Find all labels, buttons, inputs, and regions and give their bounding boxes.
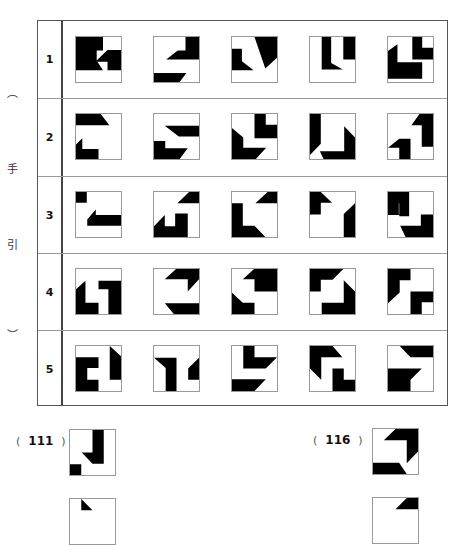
tile-shape (388, 114, 433, 159)
row-number: 1 (38, 21, 61, 98)
figure-tile (309, 345, 356, 392)
tile-shape (232, 346, 277, 391)
row-number: 2 (38, 99, 61, 176)
figure-tile (231, 113, 278, 160)
next-question-figure-left (69, 498, 116, 545)
table-row-2: 2 (38, 98, 447, 176)
figure-tile (309, 268, 356, 315)
row-number: 3 (38, 177, 61, 254)
tile-shape (373, 429, 418, 474)
tile-shape (76, 114, 109, 159)
tile-shape (70, 430, 104, 475)
figure-tile (153, 268, 200, 315)
tile-shape (396, 498, 419, 509)
figure-tile (387, 113, 434, 160)
figure-tile (387, 345, 434, 392)
tile-shape (388, 37, 433, 79)
row-number: 4 (38, 254, 61, 331)
figure-tile (75, 191, 122, 238)
answer-close-paren: ) (61, 435, 65, 448)
next-question-figure-right (372, 497, 419, 544)
question-111-figure (69, 429, 116, 476)
tile-shape (310, 269, 355, 314)
figure-tile (387, 36, 434, 83)
side-note-open-paren: ︵ (4, 84, 20, 100)
table-row-3: 3 (38, 176, 447, 254)
question-number: 116 (325, 433, 350, 447)
tile-shape (388, 192, 433, 237)
tile-shape (76, 192, 121, 226)
tile-shape (232, 269, 277, 314)
side-note-char-guide: 引 (4, 236, 20, 252)
figure-tile (231, 268, 278, 315)
figure-tile (153, 345, 200, 392)
question-116-figure (372, 428, 419, 475)
figure-tile (231, 345, 278, 392)
tile-shape (310, 346, 355, 391)
answer-close-paren: ) (358, 434, 362, 447)
figure-tile (231, 36, 278, 83)
tile-shape (388, 269, 433, 314)
tile-shape (76, 37, 121, 70)
tile-shape (76, 281, 121, 314)
answer-open-paren: ( (16, 435, 20, 448)
answer-open-paren: ( (313, 434, 317, 447)
figure-tile (75, 268, 122, 315)
tile-shape (154, 192, 199, 237)
figure-tile (75, 36, 122, 83)
tile-shape (310, 114, 355, 159)
figure-tile (387, 268, 434, 315)
tile-shape (310, 192, 355, 237)
question-number: 111 (28, 434, 53, 448)
figure-tile (309, 113, 356, 160)
side-note-char-hand: 手 (4, 160, 20, 176)
tile-shape (154, 37, 199, 82)
figure-tile (153, 113, 200, 160)
row-number: 5 (38, 331, 61, 408)
figure-tile (309, 36, 356, 83)
tile-shape (232, 37, 277, 70)
tile-shape (76, 346, 121, 391)
tile-shape (81, 499, 92, 510)
figure-tile (387, 191, 434, 238)
figure-tile (75, 113, 122, 160)
tile-shape (154, 358, 199, 391)
figure-tile (153, 191, 200, 238)
tile-shape (165, 269, 199, 314)
tile-shape (322, 37, 355, 69)
question-111: ( 111 ) (16, 433, 66, 449)
tile-shape (232, 114, 277, 159)
figure-tile (75, 345, 122, 392)
figure-tile (231, 191, 278, 238)
tile-shape (388, 346, 433, 391)
tile-shape (154, 126, 199, 159)
figure-reference-table: 1 2 3 4 5 (37, 20, 448, 406)
table-row-1: 1 (38, 21, 447, 98)
question-116: ( 116 ) (313, 432, 363, 448)
figure-tile (309, 191, 356, 238)
table-row-4: 4 (38, 253, 447, 331)
side-note-close-paren: ︶ (4, 326, 20, 342)
tile-shape (232, 192, 277, 237)
table-row-5: 5 (38, 330, 447, 408)
figure-tile (153, 36, 200, 83)
